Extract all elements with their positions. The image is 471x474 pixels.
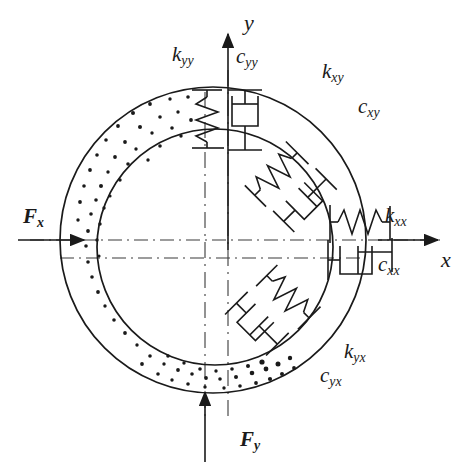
spring-kxy-inner-plate (245, 185, 266, 206)
stiffness-kxy-label: kxy (322, 59, 344, 86)
centerlines (30, 70, 440, 420)
stiffness-kyy-label: kyy (172, 42, 194, 69)
spring-kyx-outer-plate (298, 307, 321, 330)
diagram-svg (0, 0, 471, 474)
damping-cxy-label: cxy (358, 94, 380, 121)
dashpot-cyy (228, 90, 262, 150)
damping-cyy-label: cyy (236, 44, 258, 71)
damping-cyx-label: cyx (320, 363, 342, 390)
spring-kxx (330, 205, 390, 243)
inner-circle-journal (97, 129, 333, 365)
force-fy-label: Fy (240, 427, 260, 454)
spring-kxy-outer-plate (286, 142, 309, 165)
dashpot-cxy (273, 168, 337, 232)
stiffness-kxx-label: kxx (385, 203, 407, 230)
spring-kyy (192, 90, 224, 148)
figure-canvas: y x Fx Fy kyy cyy kxy cxy kxx cxx kyx cy… (0, 0, 471, 474)
damping-cxx-label: cxx (378, 252, 400, 279)
axis-x-label: x (441, 247, 451, 273)
stiffness-kyx-label: kyx (344, 339, 366, 366)
dashpot-cxx-cylinder (340, 246, 372, 274)
spring-kxy (243, 142, 308, 207)
force-fx-label: Fx (23, 204, 44, 231)
axis-y-label: y (244, 10, 254, 36)
